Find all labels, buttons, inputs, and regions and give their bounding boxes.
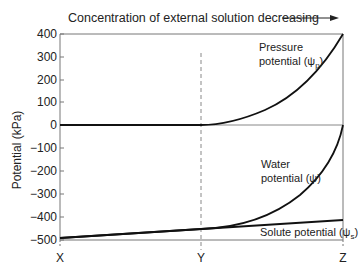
- y-ticks: 400 300 200 100 0 −100 −200 −300 −400 −5…: [30, 27, 64, 247]
- svg-text:−400: −400: [30, 210, 57, 224]
- arrow-right-icon: [330, 15, 339, 21]
- water-label-2: potential (ψ): [261, 172, 321, 184]
- svg-text:100: 100: [37, 95, 57, 109]
- svg-text:−100: −100: [30, 141, 57, 155]
- svg-text:0: 0: [50, 118, 57, 132]
- svg-text:200: 200: [37, 73, 57, 87]
- water-label: Water: [261, 158, 290, 170]
- svg-text:−300: −300: [30, 187, 57, 201]
- svg-text:Z: Z: [339, 251, 346, 265]
- svg-text:X: X: [56, 251, 64, 265]
- svg-text:Y: Y: [197, 251, 205, 265]
- y-axis-label: Potential (kPa): [10, 111, 24, 190]
- chart: Concentration of external solution decre…: [0, 0, 362, 278]
- svg-text:−500: −500: [30, 233, 57, 247]
- svg-text:400: 400: [37, 27, 57, 41]
- svg-text:300: 300: [37, 50, 57, 64]
- chart-title: Concentration of external solution decre…: [68, 11, 319, 25]
- pressure-label: Pressure: [259, 41, 303, 53]
- svg-text:−200: −200: [30, 164, 57, 178]
- pressure-label-2: potential (ψp): [259, 55, 323, 70]
